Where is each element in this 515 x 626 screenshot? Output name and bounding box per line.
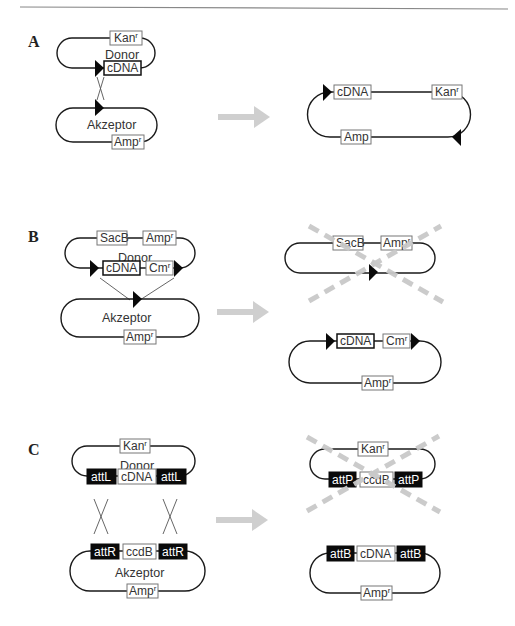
panel-c-donor-plasmid: Kanr Donor attL cDNA attL (72, 439, 195, 484)
kan-marker-label: Kanr (114, 31, 138, 45)
amp-marker-label: Ampr (146, 231, 174, 245)
amp-marker-label: Ampr (364, 376, 392, 390)
panel-a-result-plasmid: cDNA Kanr Amp (308, 84, 471, 146)
recombination-line (140, 278, 174, 300)
panel-label-a: A (28, 33, 40, 50)
recombination-site-triangle-icon (326, 333, 335, 350)
panel-b-donor-plasmid: SacB Ampr Donor cDNA Cmr (65, 231, 195, 277)
ccdb-label: ccdB (126, 545, 153, 559)
sacb-marker-label: SacB (100, 231, 129, 245)
panel-b-result-plasmid: cDNA Cmr Ampr (289, 333, 441, 390)
amp-marker-label: Ampr (114, 135, 142, 149)
recombination-site-triangle-icon (90, 260, 99, 277)
attr-site-label: attR (162, 545, 184, 559)
acceptor-label: Akzeptor (102, 311, 151, 325)
panel-b-acceptor-plasmid: Akzeptor Ampr (61, 291, 199, 344)
recombination-site-triangle-icon (133, 291, 142, 308)
recombination-site-triangle-icon (411, 333, 420, 350)
panel-b-discarded-plasmid: SacB Ampr (285, 226, 443, 302)
panel-a-donor-plasmid: Kanr Donor cDNA (57, 31, 155, 77)
attl-site-label: attL (91, 470, 111, 484)
cdna-label: cDNA (360, 547, 391, 561)
recombination-line (100, 278, 130, 300)
kan-marker-label: Kanr (435, 85, 459, 99)
donor-label: Donor (105, 48, 139, 62)
panel-a-acceptor-plasmid: Akzeptor Ampr (56, 99, 157, 149)
cdna-label: cDNA (121, 470, 152, 484)
amp-marker-label: Ampr (126, 330, 154, 344)
kan-marker-label: Kanr (361, 442, 385, 456)
panel-c-acceptor-plasmid: attR ccdB attR Akzeptor Ampr (70, 544, 205, 598)
header-rule (20, 7, 508, 9)
cdna-label: cDNA (340, 334, 371, 348)
cdna-label: cDNA (107, 61, 138, 75)
kan-marker-label: Kanr (123, 439, 147, 453)
recombination-site-triangle-icon (95, 60, 104, 77)
reaction-arrow-a (218, 106, 270, 128)
recombination-site-triangle-icon (323, 84, 332, 101)
panel-label-b: B (28, 228, 39, 245)
attr-site-label: attR (94, 545, 116, 559)
panel-c-result-plasmid: attB cDNA attB Ampr (310, 546, 440, 600)
acceptor-label: Akzeptor (115, 566, 164, 580)
attp-site-label: attP (332, 473, 353, 487)
cm-marker-label: Cmr (386, 334, 408, 348)
recombination-cloning-diagram: A Kanr Donor cDNA Akzeptor Ampr cDNA Kan… (0, 0, 515, 626)
attb-site-label: attB (330, 547, 351, 561)
recombination-site-triangle-icon (95, 99, 104, 116)
attp-site-label: attP (398, 473, 419, 487)
reaction-arrow-b (217, 301, 269, 323)
reaction-arrow-c (216, 509, 268, 531)
amp-marker-label: Ampr (129, 584, 157, 598)
amp-marker-label: Ampr (363, 586, 391, 600)
panel-label-c: C (28, 441, 40, 458)
panel-c-discarded-plasmid: Kanr attP ccdB attP (307, 436, 440, 512)
amp-label: Amp (344, 130, 369, 144)
cm-marker-label: Cmr (149, 261, 171, 275)
acceptor-label: Akzeptor (87, 118, 136, 132)
attl-site-label: attL (161, 470, 181, 484)
attb-site-label: attB (400, 547, 421, 561)
cdna-label: cDNA (106, 261, 137, 275)
cdna-label: cDNA (337, 85, 368, 99)
recombination-site-triangle-icon (452, 129, 461, 146)
recombination-site-triangle-icon (174, 260, 183, 277)
